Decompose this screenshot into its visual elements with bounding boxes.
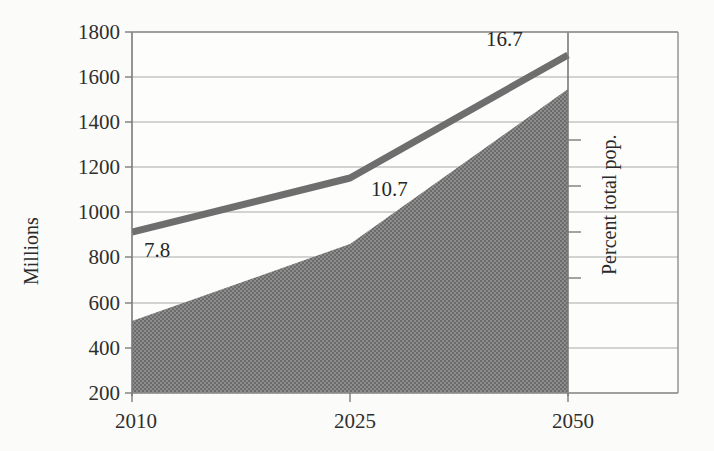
chart-figure: 1800 1600 1400 1200 1000 800 600 400 200…	[0, 0, 714, 451]
data-label-2050: 16.7	[486, 27, 523, 51]
bottom-tick-label-2025: 2025	[334, 409, 376, 433]
data-label-2010: 7.8	[144, 238, 170, 262]
left-axis-tick-labels: 1800 1600 1400 1200 1000 800 600 400 200	[78, 20, 120, 405]
bottom-axis	[132, 393, 568, 402]
bottom-axis-tick-labels: 2010 2025 2050	[115, 409, 594, 433]
left-tick-label-1600: 1600	[78, 65, 120, 89]
left-tick-label-1800: 1800	[78, 20, 120, 44]
left-tick-label-1000: 1000	[78, 200, 120, 224]
bottom-tick-label-2050: 2050	[552, 409, 594, 433]
left-axis	[125, 32, 132, 396]
left-axis-title: Millions	[20, 217, 42, 285]
left-tick-label-800: 800	[89, 245, 121, 269]
left-tick-label-400: 400	[89, 336, 121, 360]
left-tick-label-200: 200	[89, 381, 121, 405]
data-label-2025: 10.7	[371, 177, 408, 201]
population-aging-chart: 1800 1600 1400 1200 1000 800 600 400 200…	[0, 0, 714, 451]
right-axis-title: Percent total pop.	[598, 134, 621, 275]
left-tick-label-1400: 1400	[78, 110, 120, 134]
bottom-tick-label-2010: 2010	[115, 409, 157, 433]
left-tick-label-1200: 1200	[78, 155, 120, 179]
left-tick-label-600: 600	[89, 291, 121, 315]
